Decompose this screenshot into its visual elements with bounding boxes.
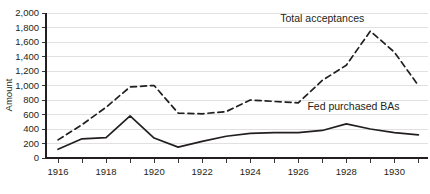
y-tick-label: 400 [23, 123, 39, 134]
x-tick-label: 1924 [240, 166, 261, 177]
x-tick-label: 1918 [95, 166, 116, 177]
x-axis: 19161918192019221924192619281930 [46, 158, 428, 177]
x-tick-label: 1916 [47, 166, 68, 177]
y-tick-label: 0 [34, 152, 39, 163]
x-tick-label: 1928 [336, 166, 357, 177]
series-line-fed-purchased-bas [58, 116, 418, 149]
y-tick-label: 1,800 [15, 22, 39, 33]
y-tick-label: 1,600 [15, 36, 39, 47]
series-annotations: Total acceptancesFed purchased BAs [280, 12, 399, 112]
line-chart: 02004006008001,0001,2001,4001,6001,8002,… [0, 0, 430, 194]
x-tick-labels: 19161918192019221924192619281930 [47, 166, 404, 177]
series-label: Fed purchased BAs [307, 100, 399, 112]
x-tick-label: 1922 [192, 166, 213, 177]
x-tick-marks [58, 158, 418, 163]
series-label: Total acceptances [280, 12, 364, 24]
data-series [58, 31, 418, 149]
y-tick-label: 1,400 [15, 51, 39, 62]
y-axis-title: Amount [3, 78, 14, 111]
x-tick-label: 1926 [288, 166, 309, 177]
y-axis: 02004006008001,0001,2001,4001,6001,8002,… [15, 7, 46, 163]
y-tick-label: 200 [23, 138, 39, 149]
y-tick-label: 2,000 [15, 7, 39, 18]
y-tick-label: 600 [23, 109, 39, 120]
chart-canvas: 02004006008001,0001,2001,4001,6001,8002,… [0, 0, 430, 194]
y-tick-label: 800 [23, 94, 39, 105]
y-tick-label: 1,200 [15, 65, 39, 76]
y-tick-marks [42, 13, 46, 158]
gridlines [46, 13, 428, 144]
y-tick-label: 1,000 [15, 80, 39, 91]
y-tick-labels: 02004006008001,0001,2001,4001,6001,8002,… [15, 7, 39, 163]
x-tick-label: 1920 [144, 166, 165, 177]
x-tick-label: 1930 [384, 166, 405, 177]
